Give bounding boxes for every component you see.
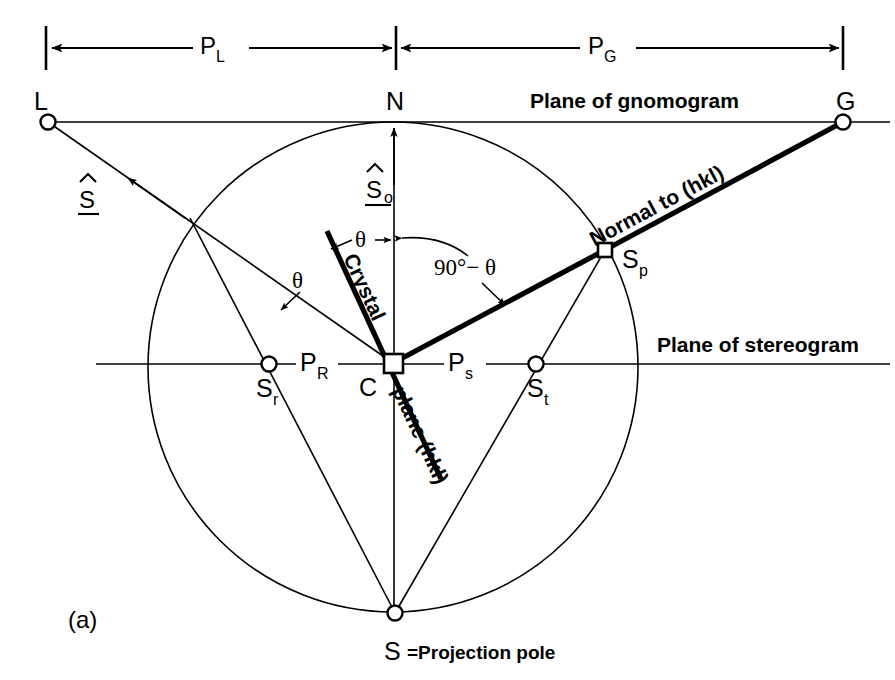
point-marker-S <box>388 606 403 621</box>
normal-to-hkl-line <box>603 122 843 251</box>
angle-theta-left-group: θ <box>281 268 303 310</box>
dim-label-pg: P <box>588 32 604 59</box>
point-label-St-subscript: t <box>544 391 549 408</box>
segment-label-PS: P <box>448 348 465 376</box>
point-marker-C <box>384 354 403 373</box>
dim-label-pg-subscript: G <box>604 48 616 65</box>
segment-label-PR: P <box>300 348 317 376</box>
point-label-C: C <box>359 373 377 401</box>
angle-ninety-minus-theta-label: 90°− θ <box>434 255 496 280</box>
s-hat-zero-circumflex <box>367 164 383 172</box>
angle-theta-left-label: θ <box>292 268 303 293</box>
normal-to-hkl-label: Normal to (hkl) <box>586 160 728 250</box>
point-label-Sp-subscript: p <box>639 262 648 279</box>
angle-leader-curve-top <box>402 238 468 256</box>
dim-label-pl: P <box>200 32 216 59</box>
point-marker-Sr <box>262 357 277 372</box>
vector-label-s-hat-zero: S <box>366 176 382 203</box>
vector-s-hat-group: S <box>78 174 99 214</box>
point-label-St: S <box>527 374 544 402</box>
angle-ninety-minus-theta-group: 90°− θ <box>402 238 505 305</box>
figure-container: P L P G θ <box>0 0 895 680</box>
point-label-Sr-subscript: r <box>273 391 279 408</box>
point-marker-G <box>836 115 851 130</box>
incident-beam-line <box>48 122 393 363</box>
point-label-L: L <box>34 87 48 115</box>
angle-theta-mid-label: θ <box>355 227 366 252</box>
dimension-bar-group: P L P G <box>46 26 843 70</box>
point-label-G: G <box>836 87 855 115</box>
panel-label: (a) <box>68 606 97 633</box>
angle-theta-left-leader <box>281 292 300 310</box>
dim-label-pl-subscript: L <box>216 48 225 65</box>
stereographic-projection-diagram: P L P G θ <box>0 0 895 680</box>
point-label-N: N <box>386 87 404 115</box>
point-marker-St <box>529 357 544 372</box>
s-hat-circumflex <box>80 174 96 182</box>
point-label-Sp: S <box>622 245 639 273</box>
vector-label-s-hat-zero-subscript: o <box>384 189 393 206</box>
projection-pole-caption-S: S <box>384 637 401 665</box>
vector-label-s-hat: S <box>79 186 95 213</box>
projection-pole-caption: =Projection pole <box>407 642 555 663</box>
incident-beam-arrowhead <box>128 178 185 218</box>
angle-theta-mid-group: θ <box>331 227 391 252</box>
stereogram-plane-label: Plane of stereogram <box>657 333 859 356</box>
plane-hkl-label: plane (hkl) <box>388 382 453 487</box>
crystal-label: Crystal <box>339 250 390 324</box>
segment-label-PR-subscript: R <box>317 365 329 382</box>
vector-s-hat-zero-group: S o <box>365 164 393 206</box>
angle-leader-to-diffracted <box>482 283 505 305</box>
segment-label-PS-subscript: s <box>465 365 473 382</box>
point-marker-L <box>41 115 56 130</box>
gnomogram-plane-label: Plane of gnomogram <box>530 89 739 112</box>
point-label-Sr: S <box>256 374 273 402</box>
